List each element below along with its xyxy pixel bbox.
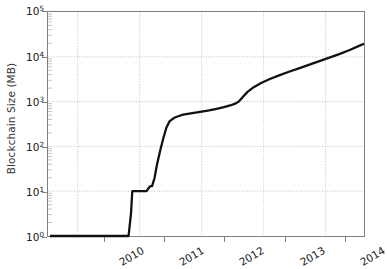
plot-area (47, 11, 365, 237)
x-tickmark-major (164, 237, 165, 242)
x-tickmark-major (285, 237, 286, 242)
x-tickmark-major (104, 237, 105, 242)
x-tick-label-2014: 2014 (358, 244, 387, 268)
x-tick-label-2010: 2010 (117, 244, 146, 268)
x-tickmark-major (224, 237, 225, 242)
data-series-layer (48, 12, 364, 236)
x-tick-label-2011: 2011 (177, 244, 206, 268)
x-tick-label-2013: 2013 (298, 244, 327, 268)
y-tickmark-major (42, 237, 47, 238)
y-axis-title: Blockchain Size (MB) (2, 0, 20, 237)
x-tickmark-major (345, 237, 346, 242)
x-tick-label-2012: 2012 (237, 244, 266, 268)
